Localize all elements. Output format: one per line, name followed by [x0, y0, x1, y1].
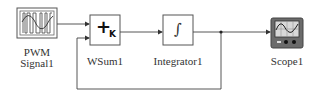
integral-icon: ∫ — [163, 19, 193, 38]
k-subscript: K — [109, 29, 116, 39]
integrator-label: Integrator1 — [148, 56, 208, 67]
wsum-symbol: + K — [96, 16, 118, 42]
pwm-label: PWM Signal1 — [12, 47, 62, 69]
scope-label: Scope1 — [262, 56, 312, 67]
scope-block[interactable] — [271, 18, 303, 48]
wsum-label: WSum1 — [80, 56, 130, 67]
pwm-signal-block[interactable] — [17, 8, 57, 38]
junction-dot — [219, 30, 222, 33]
